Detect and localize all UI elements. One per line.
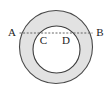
label-d: D bbox=[62, 34, 70, 46]
annulus-diagram-svg: A B C D bbox=[0, 0, 112, 101]
label-b: B bbox=[96, 26, 103, 38]
label-c: C bbox=[40, 34, 47, 46]
label-a: A bbox=[8, 26, 16, 38]
geometry-diagram-figure: A B C D bbox=[0, 0, 112, 101]
